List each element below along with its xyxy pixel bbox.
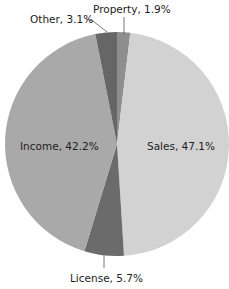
label-income: Income, 42.2% [20,140,99,152]
label-other: Other, 3.1% [30,13,93,25]
label-property: Property, 1.9% [93,3,171,15]
label-sales: Sales, 47.1% [147,140,215,152]
label-license: License, 5.7% [70,272,143,284]
pie-chart: Property, 1.9% Other, 3.1% Sales, 47.1% … [0,0,229,289]
